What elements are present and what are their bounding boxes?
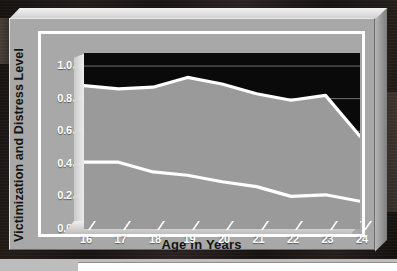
x-tick-mark: [364, 221, 372, 230]
y-axis-title: Victimization and Distress Level: [12, 29, 30, 261]
y-tick-label: 0.6: [57, 124, 72, 136]
x-tick-label: 16: [80, 233, 92, 245]
y-axis-tick-column: 0.00.20.40.60.81.0: [38, 31, 72, 237]
y-tick-label: 0.4: [57, 157, 72, 169]
x-tick-label: 19: [183, 233, 195, 245]
x-tick-label: 17: [114, 233, 126, 245]
plaque-right-bevel: [375, 8, 387, 252]
x-tick-label: 18: [149, 233, 161, 245]
area-chart-svg: [84, 53, 360, 229]
x-tick-label: 23: [321, 233, 333, 245]
x-tick-label: 22: [287, 233, 299, 245]
plot-area: [84, 53, 360, 229]
y-tick-label: 0.2: [57, 189, 72, 201]
y-tick-label: 0.8: [57, 92, 72, 104]
bottom-light-strip-inner: [78, 262, 397, 271]
x-tick-label: 24: [356, 233, 368, 245]
x-axis-tick-row: 161718192021222324: [38, 227, 365, 249]
plaque-face: Victimization and Distress Level Age in …: [9, 18, 375, 250]
chart-plaque: Victimization and Distress Level Age in …: [9, 8, 387, 252]
chart-card: 0.00.20.40.60.81.0 161718192021222324: [38, 31, 365, 237]
x-tick-label: 20: [218, 233, 230, 245]
bottom-light-strip: [0, 259, 397, 271]
x-tick-label: 21: [252, 233, 264, 245]
y-tick-label: 1.0: [57, 59, 72, 71]
